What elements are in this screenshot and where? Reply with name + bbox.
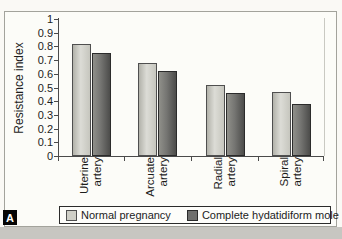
y-tick-label: 0.9: [9, 27, 53, 39]
legend-label-normal-pregnancy: Normal pregnancy: [81, 209, 171, 221]
y-tick-label: 0.5: [9, 82, 53, 94]
y-tick-label: 0.1: [9, 136, 53, 148]
legend-item-complete-hydatidiform-mole: Complete hydatidiform mole: [187, 209, 339, 221]
bar: [226, 93, 245, 156]
legend-label-complete-hydatidiform-mole: Complete hydatidiform mole: [202, 209, 339, 221]
y-tick-label: 0.6: [9, 68, 53, 80]
plot-area: Resistance index 10.90.80.70.60.50.40.30…: [5, 12, 336, 226]
y-tick: [54, 101, 58, 102]
plot-right-wall: [324, 18, 325, 156]
y-axis-line: [58, 18, 59, 157]
y-tick: [54, 19, 58, 20]
x-tick: [258, 157, 259, 161]
x-tick: [323, 157, 324, 161]
x-tick: [124, 157, 125, 161]
y-tick: [54, 74, 58, 75]
bar: [72, 44, 91, 156]
y-tick: [54, 33, 58, 34]
bar: [272, 92, 291, 156]
panel-label-a: A: [3, 210, 17, 225]
legend-swatch-complete-hydatidiform-mole: [187, 210, 198, 221]
bar: [138, 63, 157, 156]
legend: Normal pregnancy Complete hydatidiform m…: [59, 206, 331, 224]
y-tick: [54, 129, 58, 130]
y-tick: [54, 46, 58, 47]
y-tick: [54, 88, 58, 89]
bar: [292, 104, 311, 156]
y-tick-label: 0: [9, 150, 53, 162]
bar: [206, 85, 225, 156]
bar: [158, 71, 177, 156]
x-tick: [58, 157, 59, 161]
y-tick-label: 0.4: [9, 95, 53, 107]
bar: [92, 53, 111, 156]
legend-item-normal-pregnancy: Normal pregnancy: [66, 209, 171, 221]
y-tick-label: 0.3: [9, 109, 53, 121]
y-tick-label: 0.7: [9, 54, 53, 66]
y-tick: [54, 60, 58, 61]
y-tick: [54, 142, 58, 143]
scan-bottom-strip: [0, 227, 342, 239]
y-tick: [54, 115, 58, 116]
y-tick-label: 0.2: [9, 123, 53, 135]
y-tick-label: 1: [9, 13, 53, 25]
x-tick: [191, 157, 192, 161]
legend-swatch-normal-pregnancy: [66, 210, 77, 221]
y-tick-label: 0.8: [9, 40, 53, 52]
figure-frame: Resistance index 10.90.80.70.60.50.40.30…: [4, 11, 337, 227]
